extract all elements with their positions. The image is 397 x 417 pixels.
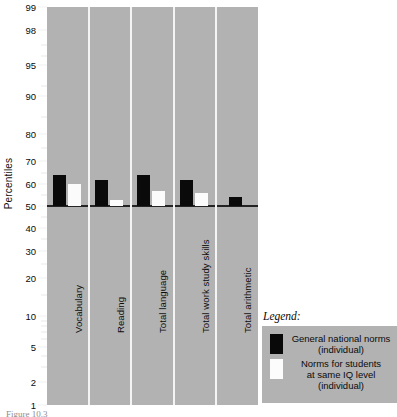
y-tick-label: 2 (31, 376, 36, 387)
y-tick-label: 50 (25, 201, 36, 212)
figure-caption: Figure 10.3 (6, 409, 48, 417)
y-tick-mark (38, 96, 47, 97)
y-tick-mark (38, 315, 47, 316)
y-tick-mark (38, 277, 47, 278)
y-tick-mark (38, 30, 47, 31)
y-tick-label: 80 (25, 129, 36, 140)
y-tick-label: 99 (25, 2, 36, 13)
bar (180, 180, 193, 206)
y-tick-mark (38, 381, 47, 382)
bar (229, 197, 242, 206)
bar (110, 200, 123, 206)
legend-swatch-black (270, 334, 283, 354)
y-tick-label: 5 (31, 341, 36, 352)
legend: Legend: General national norms(individua… (262, 310, 397, 403)
y-tick-mark (38, 227, 47, 228)
y-axis: 125102030405060708090959899 (0, 0, 47, 417)
y-tick-label: 10 (25, 310, 36, 321)
category-label: Total work study skills (200, 239, 211, 333)
y-tick-label: 30 (25, 245, 36, 256)
legend-entry: General national norms(individual) (266, 333, 393, 355)
y-tick-label: 70 (25, 156, 36, 167)
y-tick-mark (38, 134, 47, 135)
y-tick-mark (38, 7, 47, 8)
plot-area: VocabularyReadingTotal languageTotal wor… (47, 7, 258, 405)
legend-title: Legend: (262, 310, 397, 322)
y-tick-mark (38, 250, 47, 251)
bar (152, 191, 165, 206)
bar-group: Total arithmetic (216, 7, 258, 405)
legend-entry: Norms for studentsat same IQ level(indiv… (266, 358, 393, 391)
y-tick-label: 95 (25, 60, 36, 71)
bar-group: Vocabulary (47, 7, 89, 405)
y-tick-mark (38, 405, 47, 406)
category-label: Vocabulary (73, 285, 84, 333)
y-tick-label: 20 (25, 272, 36, 283)
category-label: Total arithmetic (242, 268, 253, 333)
bar (137, 175, 150, 206)
bar-group: Total language (131, 7, 173, 405)
bar (95, 180, 108, 206)
bar (53, 175, 66, 206)
y-tick-mark (38, 206, 47, 207)
y-tick-label: 98 (25, 25, 36, 36)
y-tick-mark (38, 161, 47, 162)
legend-box: General national norms(individual)Norms … (262, 326, 397, 403)
bar-group: Reading (89, 7, 131, 405)
bar (195, 193, 208, 206)
y-tick-mark (38, 346, 47, 347)
y-tick-mark (38, 65, 47, 66)
bar-group: Total work study skills (174, 7, 216, 405)
y-tick-label: 90 (25, 91, 36, 102)
y-tick-mark (38, 184, 47, 185)
bar (68, 184, 81, 206)
chart-root: Percentiles 125102030405060708090959899 … (0, 0, 397, 417)
legend-swatch-white (270, 359, 283, 379)
category-label: Total language (157, 270, 168, 333)
legend-entry-label: Norms for studentsat same IQ level(indiv… (289, 358, 393, 391)
y-tick-label: 40 (25, 222, 36, 233)
y-tick-label: 60 (25, 179, 36, 190)
legend-entry-label: General national norms(individual) (289, 333, 393, 355)
category-label: Reading (115, 297, 126, 333)
